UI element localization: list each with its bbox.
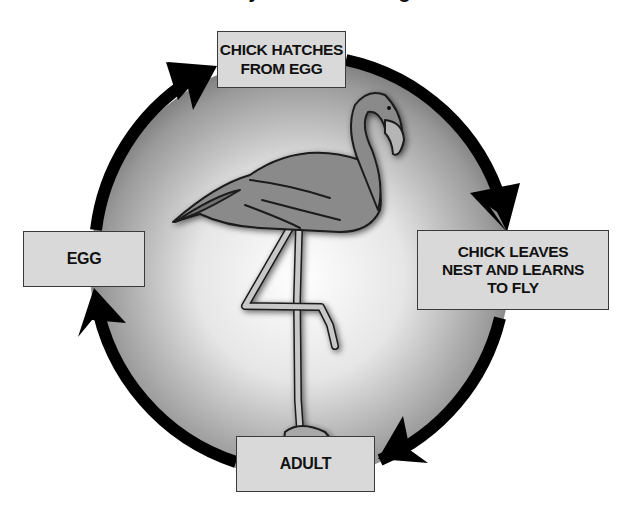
stage-chick-hatches-line-1: CHICK HATCHES	[220, 41, 343, 59]
stage-chick-leaves-line-3: TO FLY	[442, 279, 584, 297]
stage-adult-box: ADULT	[236, 436, 375, 492]
stage-egg-label: EGG	[67, 250, 102, 269]
life-cycle-diagram: Life Cycle of a Flamingo	[0, 0, 617, 515]
stage-chick-hatches-line-2: FROM EGG	[220, 60, 343, 78]
stage-chick-leaves-line-1: CHICK LEAVES	[442, 243, 584, 261]
stage-chick-hatches-box: CHICK HATCHES FROM EGG	[217, 31, 346, 88]
stage-chick-leaves-box: CHICK LEAVES NEST AND LEARNS TO FLY	[417, 230, 609, 310]
stage-adult-label: ADULT	[280, 455, 332, 474]
stage-egg-box: EGG	[23, 231, 145, 287]
stage-chick-leaves-line-2: NEST AND LEARNS	[442, 261, 584, 279]
